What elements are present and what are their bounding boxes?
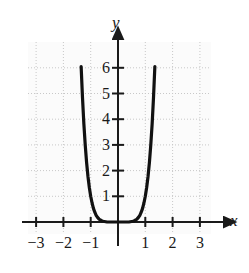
x-tick-label: −1 [79,235,103,251]
x-tick-label: 2 [161,235,185,251]
y-axis-label: y [112,14,120,31]
x-tick-label: 3 [188,235,212,251]
plot-background [28,42,211,234]
x-tick-label: 1 [133,235,157,251]
y-tick-label: 6 [92,60,110,76]
y-tick-label: 2 [92,163,110,179]
y-tick-label: 4 [92,111,110,127]
y-tick-label: 5 [92,86,110,102]
y-tick-label: 1 [92,188,110,204]
cartesian-plot [0,0,249,273]
graph-figure: y x −3−2−1123123456 [0,0,249,273]
x-tick-label: −2 [51,235,75,251]
x-axis-label: x [230,212,238,229]
x-tick-label: −3 [24,235,48,251]
y-tick-label: 3 [92,137,110,153]
